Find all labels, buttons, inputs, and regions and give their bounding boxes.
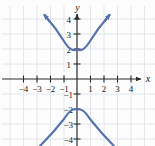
x-tick-label: −4 — [19, 84, 29, 94]
x-axis-label: x — [145, 73, 151, 84]
y-axis-label: y — [74, 2, 80, 13]
y-tick-label: 1 — [67, 60, 72, 70]
x-tick-label: −2 — [46, 84, 56, 94]
y-tick-label: 4 — [67, 15, 72, 25]
x-tick-label: 1 — [88, 84, 93, 94]
x-tick-label: −3 — [32, 84, 42, 94]
x-tick-label: 2 — [102, 84, 107, 94]
y-tick-label: −1 — [63, 90, 73, 100]
y-tick-label: 3 — [67, 30, 72, 40]
y-tick-label: −3 — [63, 120, 73, 130]
x-tick-label: 3 — [115, 84, 120, 94]
figure-panel: a) — [0, 0, 155, 146]
y-tick-label: −4 — [63, 135, 73, 145]
graph-canvas: −4 −3 −2 −1 1 2 3 4 4 3 2 1 −1 −2 −3 −4 … — [0, 0, 155, 146]
x-tick-label: 4 — [129, 84, 134, 94]
